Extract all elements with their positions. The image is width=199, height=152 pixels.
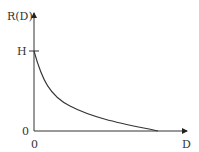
- y-tick-h-label: H: [17, 45, 27, 58]
- rate-distortion-chart: R(D) H 0 0 D: [0, 0, 199, 152]
- x-axis-label: D: [182, 138, 191, 151]
- y-tick-zero-label: 0: [22, 125, 29, 138]
- rd-curve: [34, 51, 158, 131]
- x-tick-zero-label: 0: [31, 138, 38, 151]
- y-axis-label: R(D): [7, 10, 33, 23]
